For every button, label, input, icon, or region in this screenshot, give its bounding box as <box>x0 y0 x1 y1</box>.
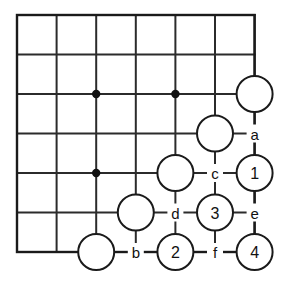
stone-unmarked-lower <box>118 195 154 231</box>
stone-move-2-label: 2 <box>171 244 180 261</box>
point-label-a: a <box>250 126 259 143</box>
stone-unmarked-top-right <box>237 76 273 112</box>
go-board-svg: abcdef 1234 <box>0 0 289 285</box>
go-board-diagram: abcdef 1234 <box>0 0 289 285</box>
stone-unmarked-upper <box>197 116 233 152</box>
star-point-lower-left <box>92 169 100 177</box>
star-point-right <box>171 90 179 98</box>
stone-unmarked-middle <box>157 155 193 191</box>
point-label-d: d <box>171 205 179 222</box>
stone-unmarked-bottom-left <box>78 234 114 270</box>
point-label-c: c <box>211 165 219 182</box>
point-label-e: e <box>250 205 258 222</box>
star-point-left <box>92 90 100 98</box>
stone-move-3-label: 3 <box>211 205 220 222</box>
stone-move-4-label: 4 <box>250 244 259 261</box>
point-label-b: b <box>132 244 140 261</box>
stone-move-1-label: 1 <box>250 165 259 182</box>
